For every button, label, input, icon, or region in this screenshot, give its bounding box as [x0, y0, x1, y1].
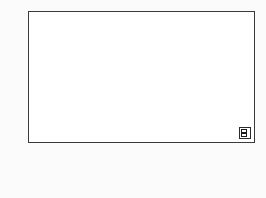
legend[interactable] — [239, 127, 252, 140]
x-axis-tick-labels — [28, 146, 255, 196]
legend-item[interactable] — [241, 129, 249, 133]
legend-item[interactable] — [241, 133, 249, 137]
legend-swatch-m15 — [241, 133, 247, 137]
figure-canvas — [0, 0, 266, 198]
plot-area — [28, 11, 255, 143]
legend-swatch-m05 — [241, 129, 247, 133]
bar-group — [29, 12, 254, 142]
